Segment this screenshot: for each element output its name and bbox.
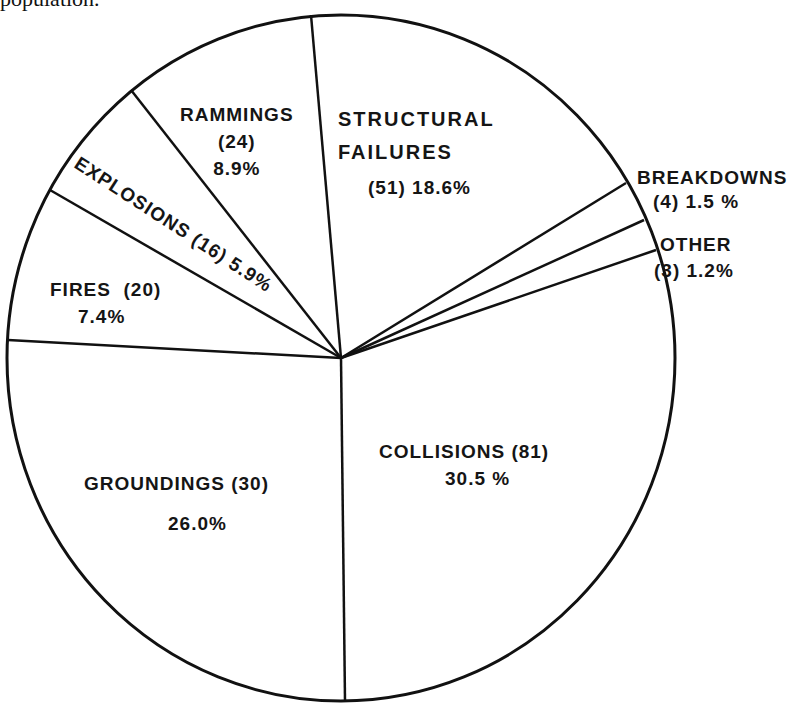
label-structural-failures: STRUCTURAL FAILURES (51) 18.6% [338,106,495,201]
label-groundings-name: GROUNDINGS (30) [84,464,269,504]
label-rammings-name: RAMMINGS [180,101,294,128]
label-rammings-percent: 8.9% [180,155,294,182]
label-collisions-name: COLLISIONS (81) [379,438,549,465]
label-rammings-count: (24) [180,128,294,155]
label-structural-value: (51) 18.6% [368,174,495,201]
label-other-name: OTHER [660,232,734,258]
label-structural-name2: FAILURES [338,139,495,166]
label-structural-name1: STRUCTURAL [338,106,495,133]
label-collisions-percent: 30.5 % [445,465,549,492]
label-breakdowns: BREAKDOWNS (4) 1.5 % [637,166,787,214]
label-collisions: COLLISIONS (81) 30.5 % [379,438,549,492]
label-fires-percent: 7.4% [78,303,161,330]
label-other-value: (3) 1.2% [654,258,734,284]
label-breakdowns-name: BREAKDOWNS [637,166,787,190]
label-breakdowns-value: (4) 1.5 % [653,190,787,214]
label-groundings: GROUNDINGS (30) 26.0% [84,464,269,544]
label-groundings-percent: 26.0% [168,504,269,544]
label-fires-name: FIRES (20) [50,276,161,303]
label-other: OTHER (3) 1.2% [660,232,734,284]
label-fires: FIRES (20) 7.4% [50,276,161,330]
label-rammings: RAMMINGS (24) 8.9% [180,101,294,182]
